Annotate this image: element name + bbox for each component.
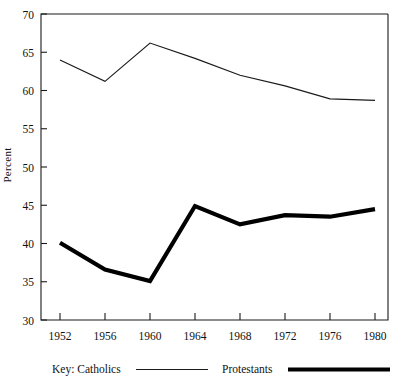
x-tick-label-1956: 1956 — [94, 330, 117, 342]
legend-prefix-and-label-catholics: Key: Catholics — [52, 363, 121, 376]
x-tick-label-1976: 1976 — [319, 330, 342, 342]
line-chart: 70 65 60 55 50 45 40 35 30 Percent 1952 … — [0, 0, 409, 384]
y-tick-label-50: 50 — [23, 162, 35, 174]
x-axis-tick-labels: 1952 1956 1960 1964 1968 1972 1976 1980 — [49, 330, 387, 342]
plot-frame — [41, 14, 388, 320]
x-tick-label-1980: 1980 — [364, 330, 387, 342]
y-tick-label-65: 65 — [23, 47, 35, 59]
y-tick-label-40: 40 — [23, 238, 35, 250]
y-tick-label-35: 35 — [23, 276, 35, 288]
y-tick-label-45: 45 — [23, 200, 35, 212]
series-line-protestants — [60, 206, 375, 281]
x-tick-label-1964: 1964 — [184, 330, 207, 342]
y-tick-label-60: 60 — [23, 85, 35, 97]
y-tick-label-55: 55 — [23, 123, 35, 135]
legend-label-protestants: Protestants — [222, 363, 273, 375]
y-axis-ticks — [41, 14, 47, 320]
x-tick-label-1952: 1952 — [49, 330, 72, 342]
y-tick-label-70: 70 — [23, 9, 35, 21]
x-tick-label-1968: 1968 — [229, 330, 252, 342]
x-axis-ticks — [60, 313, 375, 320]
series-line-catholics — [60, 43, 375, 100]
x-tick-label-1960: 1960 — [139, 330, 162, 342]
x-tick-label-1972: 1972 — [274, 330, 297, 342]
y-axis-title: Percent — [1, 147, 13, 182]
y-tick-label-30: 30 — [23, 315, 35, 327]
chart-legend: Key: Catholics Protestants — [52, 363, 390, 376]
chart-figure: 70 65 60 55 50 45 40 35 30 Percent 1952 … — [0, 0, 409, 384]
y-axis-tick-labels: 70 65 60 55 50 45 40 35 30 — [23, 9, 35, 327]
